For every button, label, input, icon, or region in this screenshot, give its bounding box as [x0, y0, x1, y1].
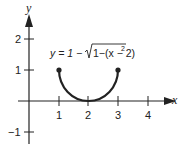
y-tick-label-neg1: −1 [8, 126, 21, 138]
x-tick-label-3: 3 [115, 109, 121, 121]
y-axis-arrow-icon [25, 14, 33, 27]
x-axis-label: x [171, 93, 178, 107]
equation-prefix: y = 1 − [49, 47, 82, 59]
endpoint-right [115, 67, 120, 72]
x-tick-label-1: 1 [56, 109, 62, 121]
equation-annotation: y = 1 − 1−(x − 2) 2 [49, 44, 135, 59]
equation-radicand: 1−(x − 2) [93, 47, 135, 59]
y-tick-label-2: 2 [15, 33, 21, 45]
endpoint-left [56, 67, 61, 72]
y-axis-label: y [25, 1, 32, 15]
chart: y x 2 1 −1 1 2 3 4 y = 1 − 1−(x − 2) 2 [0, 0, 184, 148]
equation-exponent: 2 [121, 45, 125, 52]
y-tick-label-1: 1 [15, 64, 21, 76]
x-tick-label-2: 2 [85, 109, 91, 121]
x-tick-label-4: 4 [145, 109, 151, 121]
